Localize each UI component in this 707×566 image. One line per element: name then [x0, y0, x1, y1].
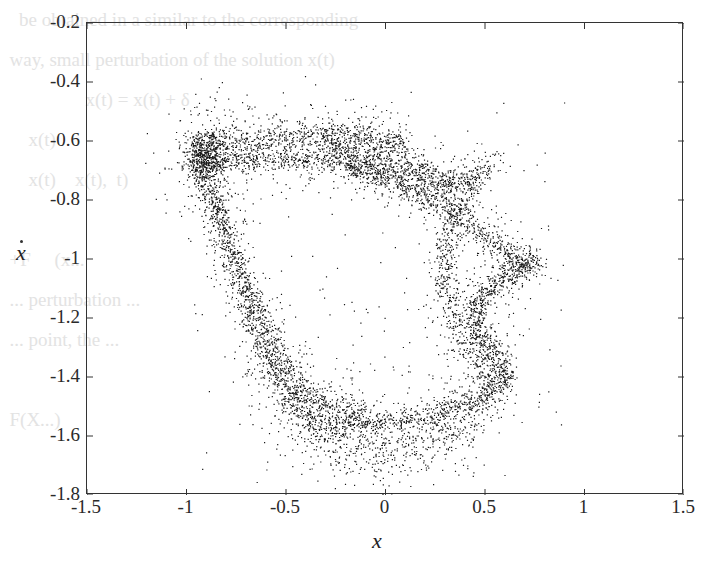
- y-tick-label: -1.4: [10, 365, 80, 387]
- plot-area: [86, 22, 683, 494]
- scatter-points: [145, 76, 565, 495]
- y-axis-label-dot: [20, 240, 23, 243]
- x-tick-label: -1.5: [56, 496, 116, 518]
- x-tick-label: 1.5: [653, 496, 707, 518]
- y-tick-label: -0.6: [10, 129, 80, 151]
- y-tick-label: -0.8: [10, 188, 80, 210]
- y-axis-label: x: [16, 240, 26, 266]
- scatter-plot: [87, 23, 684, 495]
- x-tick-label: 0: [355, 496, 415, 518]
- x-tick-label: -1: [156, 496, 216, 518]
- x-tick-label: 0.5: [454, 496, 514, 518]
- x-tick-label: -0.5: [255, 496, 315, 518]
- y-tick-label: -1.2: [10, 306, 80, 328]
- y-tick-label: -0.4: [10, 70, 80, 92]
- y-tick-label: -1.6: [10, 424, 80, 446]
- x-tick-label: 1: [554, 496, 614, 518]
- y-tick-label: -0.2: [10, 11, 80, 33]
- x-axis-label: x: [372, 528, 382, 554]
